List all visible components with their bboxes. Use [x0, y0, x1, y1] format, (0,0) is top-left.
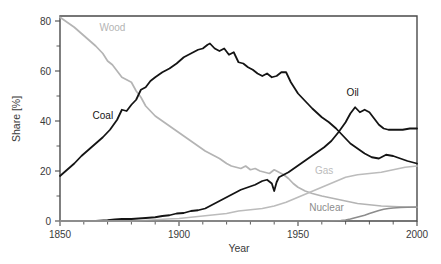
y-tick-label: 60 [40, 66, 52, 77]
series-label-oil: Oil [347, 87, 359, 98]
series-line-gas [60, 166, 417, 221]
y-tick-label: 20 [40, 166, 52, 177]
chart-canvas: 1850190019502000020406080 WoodCoalOilGas… [0, 0, 441, 264]
series-label-coal: Coal [93, 110, 114, 121]
x-tick-label: 1950 [287, 229, 310, 240]
series-group [60, 17, 417, 221]
series-label-nuclear: Nuclear [309, 202, 344, 213]
x-tick-label: 2000 [406, 229, 429, 240]
series-line-wood [60, 17, 417, 207]
x-axis-title: Year [228, 242, 250, 254]
y-tick-label: 80 [40, 16, 52, 27]
y-axis-title: Share [%] [10, 96, 22, 142]
y-tick-label: 0 [45, 216, 51, 227]
series-label-gas: Gas [315, 165, 333, 176]
x-tick-label: 1850 [49, 229, 72, 240]
x-tick-label: 1900 [168, 229, 191, 240]
y-tick-label: 40 [40, 116, 52, 127]
energy-share-chart: 1850190019502000020406080 WoodCoalOilGas… [0, 0, 441, 264]
series-label-wood: Wood [99, 22, 125, 33]
